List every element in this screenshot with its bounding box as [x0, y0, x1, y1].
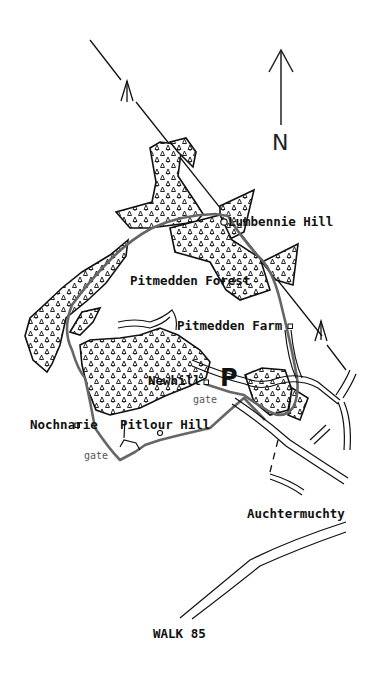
gate-label: gate — [193, 394, 217, 405]
place-label-auchtermuchty: Auchtermuchty — [247, 506, 345, 521]
north-arrow-icon — [269, 50, 293, 125]
parking-icon: P — [220, 364, 238, 392]
building-icon — [288, 324, 293, 329]
gate-label: gate — [84, 450, 108, 461]
place-label-newhill: Newhill — [148, 373, 201, 388]
walk-title: WALK 85 — [153, 626, 206, 641]
building-icon — [204, 380, 209, 385]
place-label-pitlour-hill: Pitlour Hill — [120, 417, 210, 432]
forest-newhill — [80, 328, 210, 415]
direction-arrow-icon — [315, 321, 327, 341]
summit-icon — [221, 219, 227, 225]
direction-arrow-icon — [121, 81, 133, 102]
north-label: N — [272, 130, 288, 155]
place-label-lumbennie-hill: Lumbennie Hill — [228, 214, 333, 229]
place-label-pitmedden-farm: Pitmedden Farm — [177, 318, 283, 333]
footpath-dashed — [270, 440, 278, 472]
walk-map: N — [0, 0, 371, 681]
forest-farm-east — [262, 244, 298, 285]
place-label-nochnarie: Nochnarie — [30, 417, 98, 432]
place-label-pitmedden-forest: Pitmedden Forest — [130, 273, 250, 288]
